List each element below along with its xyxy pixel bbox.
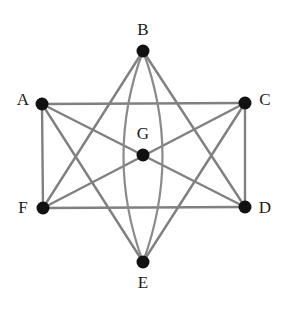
vertex-group — [36, 45, 252, 269]
edge-a-f — [42, 104, 43, 208]
edge-e-a — [42, 104, 143, 262]
vertex-c — [239, 97, 252, 110]
vertex-a — [36, 98, 49, 111]
vertex-g — [137, 149, 150, 162]
vertex-d — [239, 201, 252, 214]
edge-a-c — [42, 103, 245, 104]
vertex-f — [37, 202, 50, 215]
vertex-label-f: F — [18, 198, 27, 217]
graph-canvas: A B C D E F G — [0, 0, 293, 312]
graph-diagram: A B C D E F G — [0, 0, 293, 312]
vertex-b — [137, 45, 150, 58]
vertex-e — [137, 256, 150, 269]
vertex-label-d: D — [259, 198, 271, 217]
vertex-label-c: C — [259, 90, 270, 109]
vertex-label-a: A — [17, 90, 30, 109]
edge-f-d — [43, 207, 245, 208]
vertex-label-b: B — [137, 20, 148, 39]
vertex-label-e: E — [138, 273, 148, 292]
vertex-label-g: G — [137, 124, 149, 143]
